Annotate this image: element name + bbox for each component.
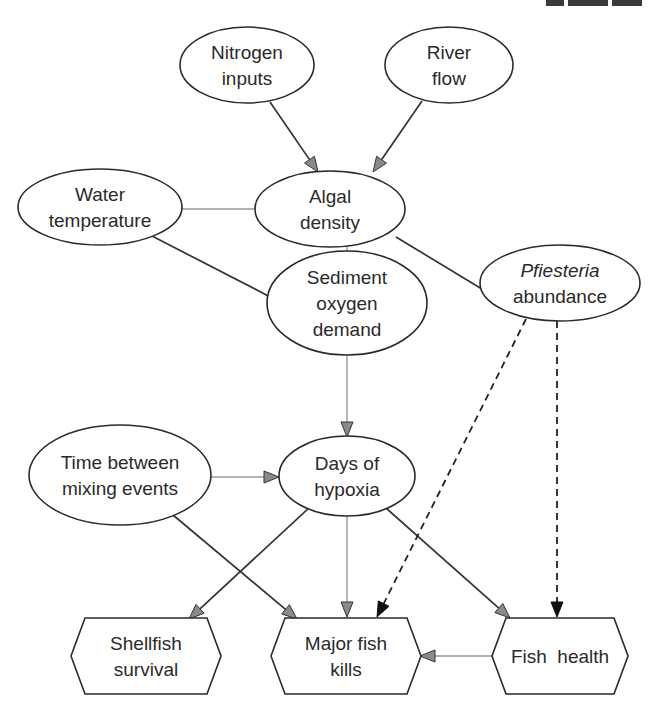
node-major-fish-kills: Major fishkills — [271, 618, 421, 694]
edge-days-of-hypoxia-to-major-fish-kills — [341, 516, 353, 617]
node-label-line: demand — [313, 319, 382, 340]
arrowhead-icon — [420, 650, 435, 662]
arrowhead-icon — [341, 422, 353, 437]
node-label-line: temperature — [49, 210, 151, 231]
edge-sediment-oxygen-demand-to-days-of-hypoxia — [341, 355, 353, 437]
node-label-line: Nitrogen — [211, 42, 283, 63]
arrowhead-icon — [551, 602, 563, 617]
node-label-line: hypoxia — [314, 479, 380, 500]
node-label-line: density — [300, 212, 361, 233]
arrowhead-icon — [373, 156, 386, 172]
edge-nitrogen-inputs-to-algal-density — [270, 102, 318, 172]
node-label-line: Major fish — [305, 633, 387, 654]
chance-node-ellipse — [29, 425, 211, 525]
influence-diagram: NitrogeninputsRiverflowWatertemperatureA… — [0, 0, 656, 707]
edge-pfiesteria-abundance-to-fish-health — [551, 321, 563, 617]
node-label-line: inputs — [222, 68, 273, 89]
arrowhead-icon — [341, 602, 353, 617]
node-label-line: abundance — [513, 286, 607, 307]
node-label-line: Shellfish — [110, 633, 182, 654]
chance-node-ellipse — [255, 171, 405, 247]
chance-node-ellipse — [279, 436, 415, 516]
edge-time-between-mixing-events-to-major-fish-kills — [173, 515, 297, 619]
node-label-line: flow — [432, 68, 466, 89]
nodes-layer: NitrogeninputsRiverflowWatertemperatureA… — [18, 27, 640, 694]
node-label-line: survival — [114, 659, 178, 680]
edge-water-temperature-to-sediment-oxygen-demand — [152, 236, 284, 304]
node-label-line: Water — [75, 184, 126, 205]
node-sediment-oxygen-demand: Sedimentoxygendemand — [267, 251, 427, 355]
edge-river-flow-to-algal-density — [373, 101, 422, 172]
chance-node-ellipse — [18, 169, 182, 245]
node-time-between-mixing-events: Time betweenmixing events — [29, 425, 211, 525]
edge-line — [200, 508, 309, 609]
node-days-of-hypoxia: Days ofhypoxia — [279, 436, 415, 516]
node-label-line: oxygen — [316, 293, 377, 314]
chance-node-ellipse — [385, 27, 513, 103]
node-label-line: River — [427, 42, 472, 63]
edge-line — [152, 236, 271, 297]
arrowhead-icon — [305, 156, 318, 172]
node-label-line: Days of — [315, 453, 380, 474]
arrowhead-icon — [264, 471, 279, 483]
edge-time-between-mixing-events-to-days-of-hypoxia — [211, 471, 279, 483]
chance-node-ellipse — [480, 245, 640, 321]
node-label-line: Pfiesteria — [520, 260, 599, 281]
edge-fish-health-to-major-fish-kills — [420, 650, 492, 662]
node-pfiesteria-abundance: Pfiesteriaabundance — [480, 245, 640, 321]
node-label-line: Fish health — [511, 646, 609, 667]
node-label-line: kills — [330, 659, 362, 680]
outcome-node-hexagon — [271, 618, 421, 694]
arrowhead-icon — [282, 605, 297, 619]
edge-line — [386, 508, 499, 608]
node-label-line: Algal — [309, 186, 351, 207]
node-nitrogen-inputs: Nitrogeninputs — [180, 27, 314, 103]
node-label-line: mixing events — [62, 478, 178, 499]
edge-days-of-hypoxia-to-shellfish-survival — [189, 508, 309, 619]
edge-line — [270, 102, 310, 160]
edge-days-of-hypoxia-to-fish-health — [386, 508, 510, 618]
node-fish-health: Fish health — [492, 618, 628, 694]
node-river-flow: Riverflow — [385, 27, 513, 103]
node-shellfish-survival: Shellfishsurvival — [71, 618, 221, 694]
edge-line — [173, 515, 286, 609]
arrowhead-icon — [377, 601, 389, 617]
node-label-line: Sediment — [307, 267, 388, 288]
chance-node-ellipse — [180, 27, 314, 103]
node-algal-density: Algaldensity — [255, 171, 405, 247]
node-label-line: Time between — [61, 452, 180, 473]
node-water-temperature: Watertemperature — [18, 169, 182, 245]
outcome-node-hexagon — [71, 618, 221, 694]
edge-line — [382, 101, 422, 160]
